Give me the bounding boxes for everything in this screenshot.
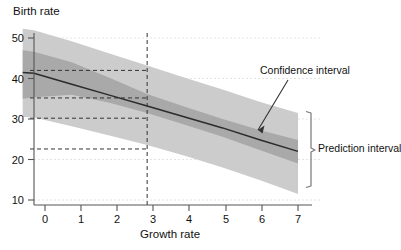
x-axis-label: Growth rate (140, 228, 200, 240)
confidence-interval-label: Confidence interval (260, 64, 350, 76)
x-axis (34, 205, 312, 211)
y-tick-label-30: 30 (4, 113, 24, 125)
prediction-interval-label: Prediction interval (318, 142, 401, 154)
x-tick-label-7: 7 (289, 213, 307, 225)
y-tick-label-50: 50 (4, 32, 24, 44)
prediction-interval-bracket (306, 112, 315, 188)
x-tick-label-5: 5 (217, 213, 235, 225)
y-tick-label-40: 40 (4, 73, 24, 85)
y-tick-label-10: 10 (4, 194, 24, 206)
x-tick-label-3: 3 (144, 213, 162, 225)
x-tick-label-0: 0 (36, 213, 54, 225)
x-tick-label-4: 4 (180, 213, 198, 225)
y-tick-label-20: 20 (4, 154, 24, 166)
x-tick-label-2: 2 (108, 213, 126, 225)
x-tick-label-6: 6 (253, 213, 271, 225)
y-axis-label: Birth rate (13, 5, 60, 17)
x-tick-label-1: 1 (72, 213, 90, 225)
